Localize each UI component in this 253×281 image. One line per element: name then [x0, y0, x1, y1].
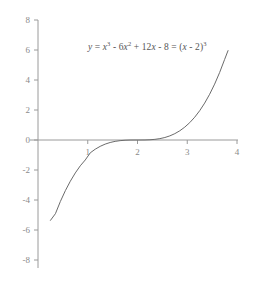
equation-annotation: y = x3 - 6x2 + 12x - 8 = (x - 2)3	[88, 40, 228, 52]
equation-term3-base: x	[151, 42, 155, 52]
y-axis-tick-label: 6	[26, 45, 31, 55]
equation-factored-exponent: 3	[203, 40, 206, 47]
equation-equals-1: =	[95, 42, 100, 52]
y-axis-tick-label: -2	[23, 165, 31, 175]
equation-term1-exponent: 3	[107, 40, 110, 47]
x-axis-tick-label: 2	[135, 147, 140, 157]
equation-factored-sign: -	[189, 42, 192, 52]
y-axis-tick-label: -4	[23, 195, 31, 205]
equation-equals-2: =	[171, 42, 176, 52]
equation-term2-exponent: 2	[128, 40, 131, 47]
equation-lhs: y	[88, 42, 92, 52]
chart-figure: 86420-2-4-6-8 1234 y = x3 - 6x2 + 12x - …	[0, 0, 253, 281]
y-axis-tick-label: 2	[26, 105, 31, 115]
x-axis-tick-label: 1	[86, 147, 91, 157]
y-axis-tick-label: 4	[26, 75, 31, 85]
equation-term2-sign: -	[113, 42, 116, 52]
y-axis-tick-label: -6	[23, 225, 31, 235]
equation-term3-coeff: 12	[142, 42, 152, 52]
equation-factored-var: x	[183, 42, 187, 52]
y-axis-tick-label: 8	[26, 15, 31, 25]
x-axis-tick-label: 4	[235, 147, 240, 157]
y-axis-tick-label: 0	[26, 135, 31, 145]
equation-term3-sign: +	[134, 42, 139, 52]
y-axis-tick-label: -8	[23, 255, 31, 265]
equation-term4-const: 8	[164, 42, 169, 52]
equation-term4-sign: -	[158, 42, 161, 52]
x-axis-tick-label: 3	[185, 147, 190, 157]
